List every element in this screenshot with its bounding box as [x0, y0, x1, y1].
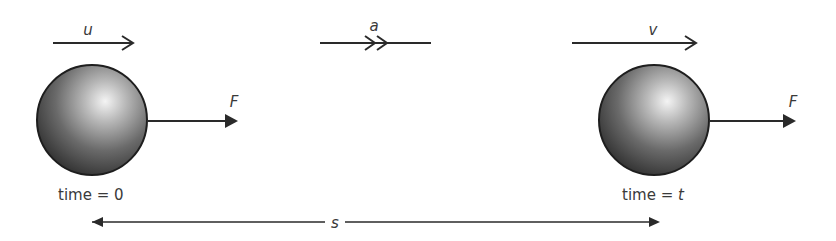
initial-velocity-arrow: u	[53, 21, 133, 50]
final-velocity-arrow: v	[572, 21, 696, 50]
time-start-label: time = 0	[58, 186, 124, 204]
final-velocity-label: v	[649, 21, 659, 39]
force-label-end: F	[789, 93, 798, 111]
acceleration-label: a	[369, 17, 378, 35]
displacement-arrow: s	[92, 214, 660, 232]
initial-velocity-label: u	[83, 21, 93, 39]
force-label-start: F	[230, 93, 239, 111]
time-end-label: time = t	[622, 186, 685, 204]
ball-start: F time = 0	[37, 65, 239, 204]
diagram-canvas: u a v F time = 0 F time	[0, 0, 836, 241]
ball-icon	[599, 65, 709, 175]
ball-icon	[37, 65, 147, 175]
motion-diagram: u a v F time = 0 F time	[0, 0, 836, 241]
acceleration-arrow: a	[320, 17, 431, 50]
displacement-label: s	[331, 214, 339, 232]
ball-end: F time = t	[599, 65, 798, 204]
